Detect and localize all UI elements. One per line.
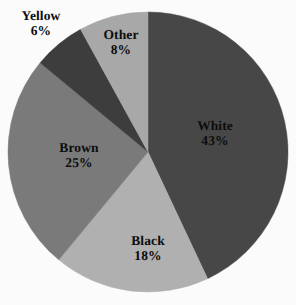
pie-label-other-name: Other xyxy=(104,27,139,42)
pie-label-brown-value: 25% xyxy=(59,155,98,170)
pie-label-yellow: Yellow 6% xyxy=(22,8,61,38)
pie-label-white-name: White xyxy=(197,118,233,133)
pie-label-yellow-name: Yellow xyxy=(22,8,61,23)
pie-label-brown-name: Brown xyxy=(59,140,98,155)
pie-label-black-name: Black xyxy=(131,233,165,248)
pie-label-brown: Brown 25% xyxy=(59,140,98,170)
pie-chart: White 43% Black 18% Brown 25% Yellow 6% … xyxy=(0,0,296,305)
pie-label-white-value: 43% xyxy=(197,133,233,148)
pie-label-white: White 43% xyxy=(197,118,233,148)
pie-label-other: Other 8% xyxy=(104,27,139,57)
pie-label-black: Black 18% xyxy=(131,233,165,263)
pie-label-yellow-value: 6% xyxy=(22,23,61,38)
pie-label-other-value: 8% xyxy=(104,42,139,57)
pie-label-black-value: 18% xyxy=(131,248,165,263)
